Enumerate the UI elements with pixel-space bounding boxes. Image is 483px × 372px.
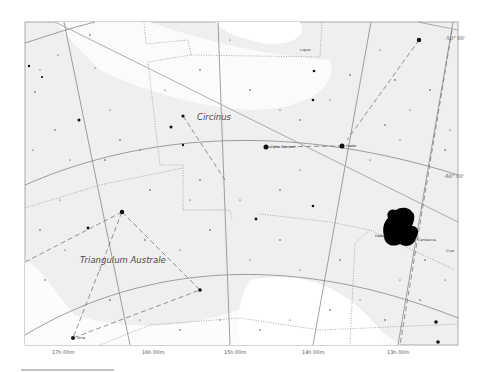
dec-label-minus-60: -60° 00' <box>444 173 464 179</box>
constellation-label-centaurus: Centaurus <box>418 238 436 242</box>
star-label-hadar: Hadar <box>346 144 357 148</box>
ra-label-14h: 14h 00m <box>302 349 324 355</box>
constellation-label-crux: Crux <box>446 249 454 253</box>
ra-label-13h: 13h 00m <box>387 349 409 355</box>
ra-label-15h: 15h 00m <box>224 349 246 355</box>
constellation-label-triangulum-australe: Triangulum Australe <box>80 255 166 265</box>
star-chart <box>0 0 483 372</box>
dec-label-minus-50: -50° 00' <box>445 35 465 41</box>
dark-nebula <box>383 208 418 246</box>
ra-label-16h: 16h 00m <box>142 349 164 355</box>
constellation-label-lupus: Lupus <box>300 48 310 52</box>
star-label-hadar-2: Hadar <box>375 234 386 238</box>
star-label-alpha-centauri: Alpha Centauri <box>270 145 296 149</box>
star-label-atria: Atria <box>77 336 85 340</box>
ra-label-17h: 17h 00m <box>52 349 74 355</box>
constellation-label-circinus: Circinus <box>197 112 231 122</box>
